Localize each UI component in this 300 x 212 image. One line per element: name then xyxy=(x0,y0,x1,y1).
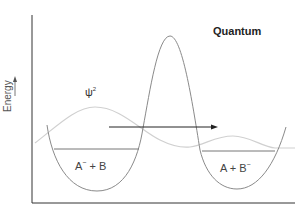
diagram-title: Quantum xyxy=(213,25,261,37)
left-state-b: + B xyxy=(86,160,106,172)
right-state-b-charge: − xyxy=(247,161,251,168)
energy-arrow-head-icon xyxy=(13,76,17,82)
wavefunction-label: ψ2 xyxy=(85,86,96,98)
tunneling-arrow-head-icon xyxy=(211,125,218,130)
left-state-label: A− + B xyxy=(75,159,106,172)
y-axis-label: Energy xyxy=(2,80,13,112)
psi-symbol: ψ xyxy=(85,86,93,98)
right-state-ab: A + B xyxy=(220,162,247,174)
right-state-label: A + B− xyxy=(220,161,251,174)
psi-exponent: 2 xyxy=(93,86,96,92)
